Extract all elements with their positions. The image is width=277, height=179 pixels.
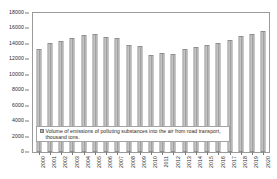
y-axis-tick-mark: [25, 28, 29, 29]
x-axis-tick-mark: [151, 152, 152, 155]
x-axis-tick-mark: [50, 152, 51, 155]
legend-swatch-icon: [40, 129, 44, 133]
x-axis-tick-mark: [106, 152, 107, 155]
y-axis-tick-mark: [25, 13, 29, 14]
x-axis-tick-label: 2018: [243, 156, 248, 168]
bar: [238, 36, 243, 152]
x-axis-tick-mark: [162, 152, 163, 155]
y-axis-tick-label: 18000: [9, 10, 24, 15]
x-axis-tick-mark: [117, 152, 118, 155]
x-axis-tick-mark: [95, 152, 96, 155]
x-axis-tick-mark: [72, 152, 73, 155]
y-axis-tick-mark: [25, 43, 29, 44]
x-axis-tick-label: 2001: [52, 156, 57, 168]
x-axis-tick-label: 2008: [131, 156, 136, 168]
x-axis-tick-mark: [173, 152, 174, 155]
y-axis-tick-mark: [25, 105, 29, 106]
x-axis-tick-mark: [252, 152, 253, 155]
x-axis-tick-label: 2019: [254, 156, 259, 168]
bar-slot: [235, 13, 246, 152]
x-axis-tick-label: 2000: [41, 156, 46, 168]
y-axis-tick-label: 2000: [12, 134, 24, 139]
bar: [261, 31, 266, 152]
x-axis-tick-label: 2006: [108, 156, 113, 168]
x-axis-tick-label: 2012: [176, 156, 181, 168]
bar-slot: [247, 13, 258, 152]
y-axis-tick-mark: [25, 59, 29, 60]
y-axis-tick-label: 6000: [12, 103, 24, 108]
x-axis-tick-label: 2003: [75, 156, 80, 168]
x-axis-tick-label: 2017: [232, 156, 237, 168]
chart-legend: Volume of emissions of polluting substan…: [36, 126, 230, 142]
y-axis-tick-mark: [25, 136, 29, 137]
x-axis-tick-mark: [129, 152, 130, 155]
x-axis-tick-mark: [84, 152, 85, 155]
bar-slot: [258, 13, 269, 152]
x-axis-tick-mark: [207, 152, 208, 155]
x-axis-tick-label: 2009: [142, 156, 147, 168]
x-axis-tick-mark: [196, 152, 197, 155]
y-axis-tick-label: 0: [21, 149, 24, 154]
x-axis: 2000200120022003200420052006200720082009…: [33, 154, 269, 179]
y-axis-tick-label: 14000: [9, 41, 24, 46]
x-axis-tick-mark: [39, 152, 40, 155]
x-axis-tick-label: 2014: [198, 156, 203, 168]
y-axis-tick-label: 4000: [12, 119, 24, 124]
y-axis-tick-label: 8000: [12, 88, 24, 93]
x-axis-tick-label: 2020: [266, 156, 271, 168]
y-axis-tick-mark: [25, 152, 29, 153]
emissions-bar-chart: 0200040006000800010000120001400016000180…: [0, 0, 277, 179]
x-axis-tick-label: 2002: [63, 156, 68, 168]
y-axis-tick-mark: [25, 121, 29, 122]
y-axis-tick-label: 10000: [9, 72, 24, 77]
x-axis-tick-mark: [241, 152, 242, 155]
x-axis-tick-label: 2016: [221, 156, 226, 168]
x-axis-tick-mark: [263, 152, 264, 155]
y-axis-tick-label: 16000: [9, 26, 24, 31]
x-axis-tick-label: 2013: [187, 156, 192, 168]
x-axis-tick-label: 2010: [153, 156, 158, 168]
x-axis-tick-label: 2011: [164, 156, 169, 168]
x-axis-tick-mark: [230, 152, 231, 155]
y-axis-tick-mark: [25, 74, 29, 75]
y-axis: 0200040006000800010000120001400016000180…: [0, 12, 29, 153]
x-axis-tick-mark: [218, 152, 219, 155]
y-axis-tick-mark: [25, 90, 29, 91]
x-axis-tick-mark: [185, 152, 186, 155]
legend-label: Volume of emissions of polluting substan…: [46, 128, 228, 140]
x-axis-tick-label: 2005: [97, 156, 102, 168]
y-axis-tick-label: 12000: [9, 57, 24, 62]
x-axis-tick-mark: [140, 152, 141, 155]
x-axis-tick-label: 2004: [86, 156, 91, 168]
x-axis-tick-label: 2015: [209, 156, 214, 168]
x-axis-tick-mark: [61, 152, 62, 155]
x-axis-tick-label: 2007: [119, 156, 124, 168]
bar: [250, 34, 255, 152]
